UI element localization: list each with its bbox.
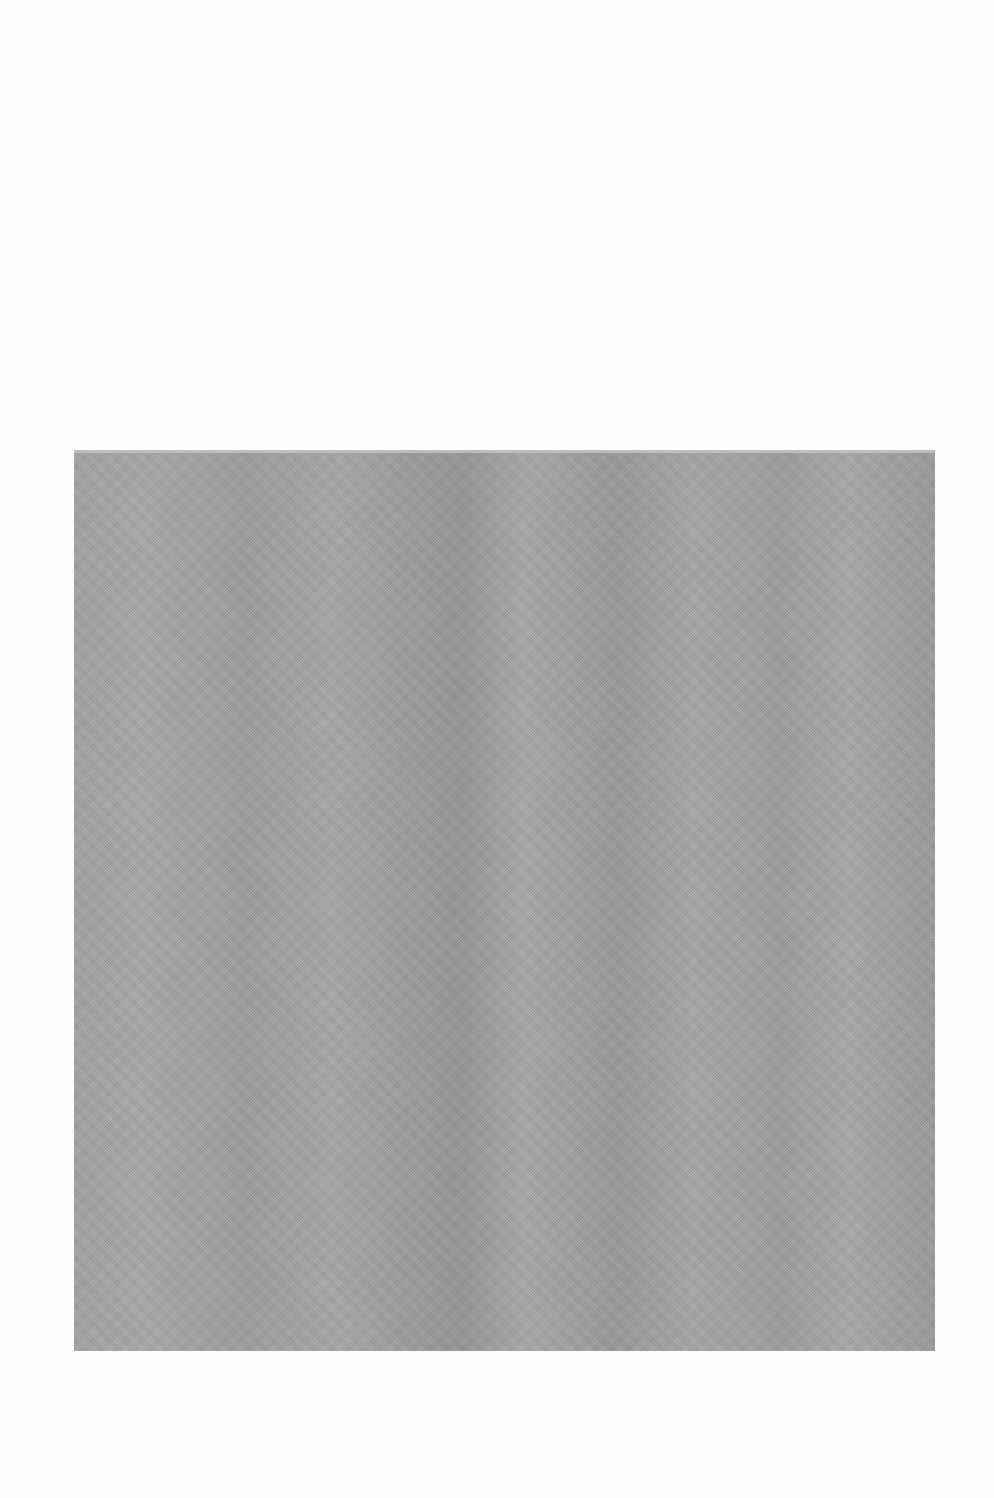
gray-image-plate	[74, 450, 935, 1351]
scanned-page	[0, 0, 994, 1498]
plate-top-edge	[74, 450, 935, 453]
